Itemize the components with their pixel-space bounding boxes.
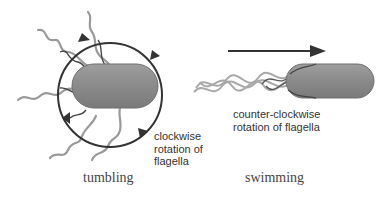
swimming-annotation: counter-clockwise rotation of flagella xyxy=(233,108,320,133)
swimming-illustration xyxy=(194,45,374,98)
tumbling-illustration xyxy=(18,12,162,160)
annotation-line-2: rotation of flagella xyxy=(233,121,320,134)
bacterial-motility-diagram: clockwise rotation of flagella counter-c… xyxy=(0,0,381,198)
annotation-line-2: rotation of xyxy=(154,143,203,156)
diagram-art xyxy=(0,0,381,198)
swimming-caption: swimming xyxy=(245,170,304,186)
annotation-line-1: clockwise xyxy=(154,130,203,143)
direction-arrowhead-icon xyxy=(310,45,326,57)
annotation-line-3: flagella xyxy=(154,155,203,168)
tumbling-annotation: clockwise rotation of flagella xyxy=(154,130,203,168)
tumbling-caption: tumbling xyxy=(83,170,134,186)
flagella-bundle-icon xyxy=(194,72,294,92)
annotation-line-1: counter-clockwise xyxy=(233,108,320,121)
bacterium-cell-icon xyxy=(72,64,158,108)
